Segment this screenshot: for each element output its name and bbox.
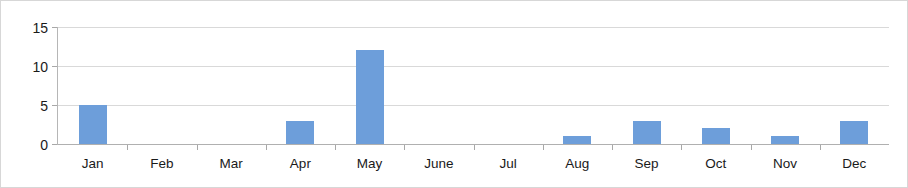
y-axis-tick-label: 10 [6,60,48,74]
x-axis-tick-mark [127,145,128,150]
x-axis-tick-label: Apr [290,157,311,171]
x-axis-tick-label: May [357,157,383,171]
x-axis-tick-mark [681,145,682,150]
x-axis-tick-mark [820,145,821,150]
gridline [58,66,889,67]
bar [356,50,384,144]
x-axis-tick-label: Sep [635,157,659,171]
bar-chart: 15 10 5 0 JanFebMarAprMayJuneJulAugSepOc… [0,0,908,188]
x-axis-tick-label: Aug [565,157,589,171]
x-axis-tick-label: Jan [82,157,104,171]
x-axis-tick-label: Jul [499,157,516,171]
x-axis-tick-mark [751,145,752,150]
x-axis-tick-mark [612,145,613,150]
x-axis-tick-label: Oct [705,157,726,171]
bar [286,121,314,144]
y-axis-tick-label: 0 [6,138,48,152]
y-axis-labels: 15 10 5 0 [1,1,48,188]
x-axis-tick-mark [543,145,544,150]
x-axis-tick-label: June [424,157,453,171]
x-axis-tick-mark [266,145,267,150]
x-axis-tick-label: Nov [773,157,797,171]
gridline [58,105,889,106]
bar [840,121,868,144]
bar [702,128,730,144]
plot-area [58,27,889,144]
bar [771,136,799,144]
gridline [58,27,889,28]
y-axis-tick-label: 15 [6,21,48,35]
x-axis-tick-mark [404,145,405,150]
y-axis-tick-label: 5 [6,99,48,113]
x-axis-tick-label: Dec [842,157,866,171]
bar [633,121,661,144]
x-axis-tick-label: Mar [220,157,243,171]
x-axis-tick-mark [474,145,475,150]
x-axis-tick-mark [335,145,336,150]
x-axis-tick-label: Feb [150,157,173,171]
bar [563,136,591,144]
bar [79,105,107,144]
x-axis-tick-mark [197,145,198,150]
